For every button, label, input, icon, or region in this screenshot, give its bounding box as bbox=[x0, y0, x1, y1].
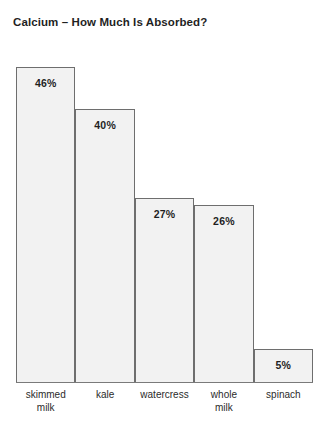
bar-cell: 26% bbox=[194, 40, 253, 383]
category-label: kale bbox=[75, 388, 134, 414]
category-label-line: milk bbox=[16, 401, 75, 414]
bar-value-label: 5% bbox=[255, 359, 312, 371]
category-label-line: watercress bbox=[135, 388, 194, 401]
bars-container: 46%40%27%26%5% bbox=[16, 40, 313, 383]
category-label: wholemilk bbox=[194, 388, 253, 414]
bar[interactable]: 46% bbox=[16, 67, 75, 383]
category-label: spinach bbox=[254, 388, 313, 414]
category-label: watercress bbox=[135, 388, 194, 414]
x-axis-line bbox=[16, 382, 313, 383]
category-label-line: skimmed bbox=[16, 388, 75, 401]
category-labels: skimmedmilkkalewatercresswholemilkspinac… bbox=[16, 388, 313, 414]
bar-chart: Calcium – How Much Is Absorbed? 46%40%27… bbox=[0, 0, 328, 438]
bar-value-label: 46% bbox=[17, 77, 74, 89]
bar-cell: 40% bbox=[75, 40, 134, 383]
bar[interactable]: 26% bbox=[194, 205, 253, 383]
bar[interactable]: 5% bbox=[254, 349, 313, 383]
bar[interactable]: 27% bbox=[135, 198, 194, 383]
category-label: skimmedmilk bbox=[16, 388, 75, 414]
bar-value-label: 26% bbox=[195, 215, 252, 227]
category-label-line: kale bbox=[75, 388, 134, 401]
category-label-line: milk bbox=[194, 401, 253, 414]
plot-area: 46%40%27%26%5% bbox=[16, 40, 313, 383]
bar[interactable]: 40% bbox=[75, 109, 134, 383]
bar-cell: 27% bbox=[135, 40, 194, 383]
bar-value-label: 27% bbox=[136, 208, 193, 220]
bar-cell: 46% bbox=[16, 40, 75, 383]
chart-title: Calcium – How Much Is Absorbed? bbox=[13, 16, 207, 28]
bar-value-label: 40% bbox=[76, 119, 133, 131]
category-label-line: whole bbox=[194, 388, 253, 401]
category-label-line: spinach bbox=[254, 388, 313, 401]
bar-cell: 5% bbox=[254, 40, 313, 383]
